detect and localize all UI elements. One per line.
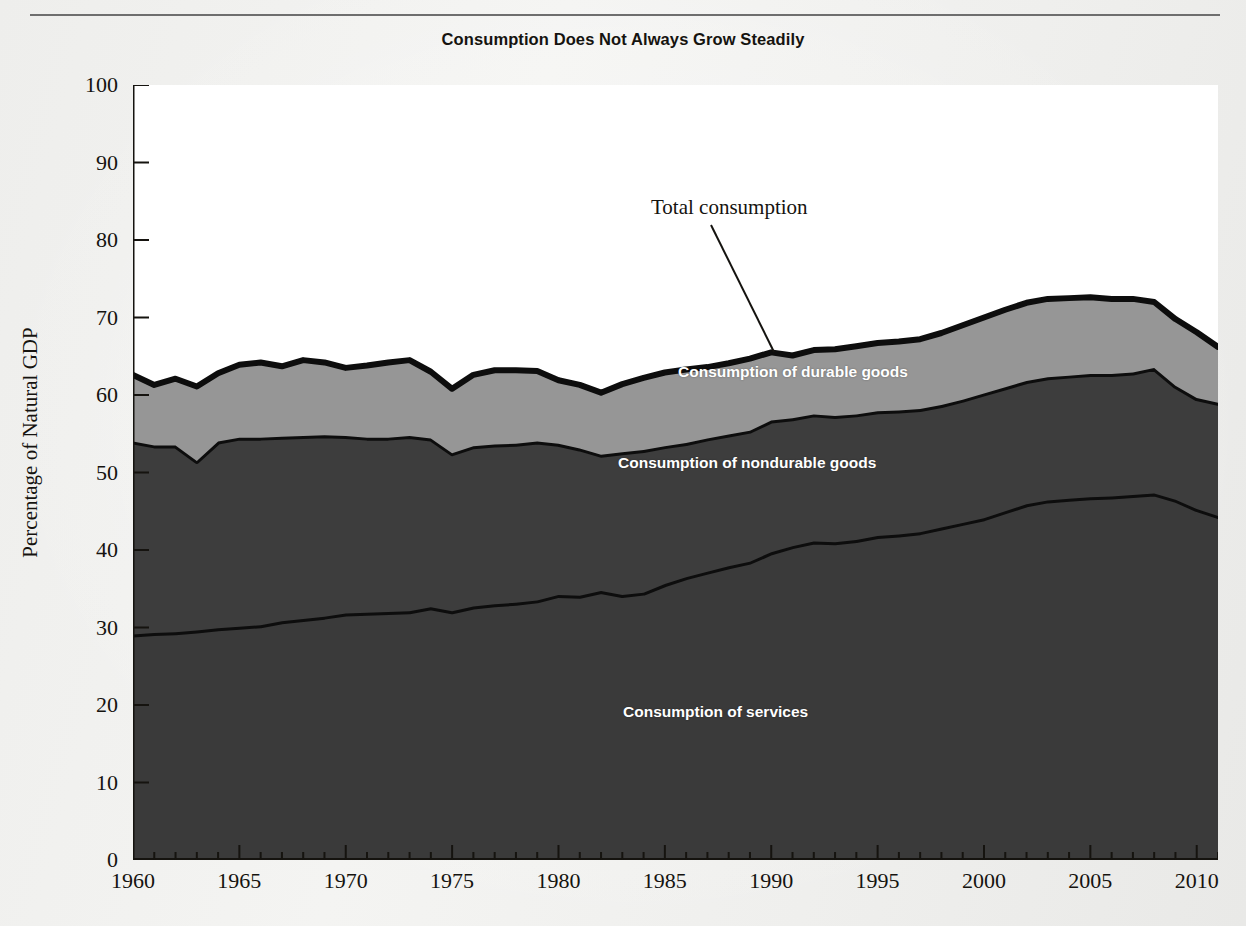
top-divider-rule: [30, 14, 1220, 16]
series-label-durable-goods: Consumption of durable goods: [678, 363, 908, 381]
page-title: Consumption Does Not Always Grow Steadil…: [0, 30, 1246, 49]
x-axis-tick-labels: 1960196519701975198019851990199520002005…: [133, 868, 1218, 902]
y-tick-label-20: 20: [72, 694, 118, 716]
y-tick-label-70: 70: [72, 307, 118, 329]
x-tick-label-1965: 1965: [199, 868, 279, 894]
y-tick-label-100: 100: [72, 74, 118, 96]
series-label-nondurable-goods: Consumption of nondurable goods: [618, 454, 876, 472]
y-tick-label-60: 60: [72, 384, 118, 406]
x-tick-label-1960: 1960: [93, 868, 173, 894]
y-tick-label-80: 80: [72, 229, 118, 251]
y-tick-label-40: 40: [72, 539, 118, 561]
x-tick-label-1990: 1990: [731, 868, 811, 894]
x-tick-label-2000: 2000: [944, 868, 1024, 894]
x-tick-label-1980: 1980: [518, 868, 598, 894]
y-tick-label-50: 50: [72, 462, 118, 484]
figure-page: Consumption Does Not Always Grow Steadil…: [0, 0, 1246, 926]
x-tick-label-2010: 2010: [1157, 868, 1237, 894]
x-tick-label-1975: 1975: [412, 868, 492, 894]
y-axis-title: Percentage of Natural GDP: [18, 233, 43, 653]
plot-area: Consumption of durable goods Consumption…: [133, 85, 1218, 860]
x-tick-label-1995: 1995: [838, 868, 918, 894]
y-tick-label-90: 90: [72, 152, 118, 174]
x-tick-label-2005: 2005: [1050, 868, 1130, 894]
series-areas: [133, 297, 1218, 860]
y-tick-label-30: 30: [72, 617, 118, 639]
x-tick-label-1970: 1970: [306, 868, 386, 894]
y-tick-label-10: 10: [72, 772, 118, 794]
figure-caption-clipped: [118, 906, 878, 926]
x-tick-label-1985: 1985: [625, 868, 705, 894]
y-axis-tick-labels: 1009080706050403020100: [60, 85, 118, 860]
series-label-services: Consumption of services: [623, 703, 808, 721]
annotation-total-consumption: Total consumption: [651, 195, 808, 220]
